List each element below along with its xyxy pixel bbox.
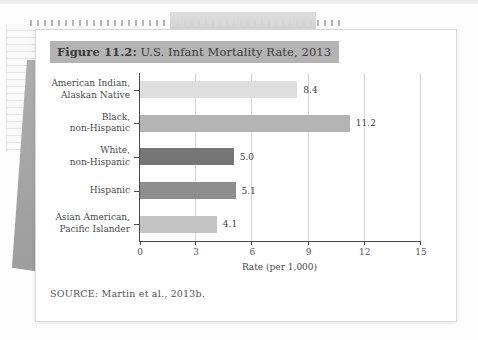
chart-bar-row: 8.4: [140, 73, 421, 107]
category-labels-column: American Indian, Alaskan NativeBlack, no…: [36, 73, 139, 241]
x-axis-tick: [251, 241, 252, 245]
chart-bar-row: 11.2: [140, 107, 421, 141]
chart-bar: [140, 81, 297, 98]
table-edge-strip: [0, 0, 478, 4]
bar-value-label: 5.1: [242, 186, 256, 196]
x-axis-tick: [420, 241, 421, 245]
category-label-row: Black, non-Hispanic: [36, 107, 139, 141]
category-label: Hispanic: [90, 185, 130, 197]
x-axis-title: Rate (per 1,000): [139, 262, 420, 272]
category-label: Asian American, Pacific Islander: [55, 212, 130, 235]
x-tick-label: 6: [250, 247, 256, 257]
category-label-row: Asian American, Pacific Islander: [36, 207, 139, 241]
figure-title: Figure 11.2: U.S. Infant Mortality Rate,…: [50, 41, 339, 63]
x-tick-label: 3: [193, 247, 199, 257]
category-label-row: Hispanic: [36, 174, 139, 208]
x-axis-tick: [308, 241, 309, 245]
chart-bar-row: 5.1: [140, 174, 421, 208]
source-note: SOURCE: Martin et al., 2013b.: [50, 288, 205, 299]
page: Figure 11.2: U.S. Infant Mortality Rate,…: [0, 0, 478, 340]
bar-value-label: 11.2: [356, 118, 376, 128]
bar-value-label: 5.0: [240, 152, 254, 162]
category-label: American Indian, Alaskan Native: [51, 78, 130, 101]
figure-card: Figure 11.2: U.S. Infant Mortality Rate,…: [35, 29, 457, 322]
x-axis-tick: [364, 241, 365, 245]
x-tick-label: 9: [306, 247, 312, 257]
chart-bar-row: 5.0: [140, 140, 421, 174]
figure-number: Figure 11.2:: [57, 45, 137, 59]
category-label: White, non-Hispanic: [70, 145, 130, 168]
chart-bar: [140, 148, 234, 165]
bar-chart-plot: 036912158.411.25.05.14.1: [139, 73, 421, 242]
x-tick-label: 12: [359, 247, 370, 257]
x-axis-tick: [140, 241, 141, 245]
category-label: Black, non-Hispanic: [70, 112, 130, 135]
chart-bar: [140, 182, 236, 199]
chart-bar: [140, 216, 217, 233]
category-label-row: White, non-Hispanic: [36, 140, 139, 174]
chart-bar-row: 4.1: [140, 207, 421, 241]
x-axis-tick: [195, 241, 196, 245]
x-tick-label: 15: [415, 247, 426, 257]
bar-value-label: 4.1: [223, 219, 237, 229]
figure-title-text: U.S. Infant Mortality Rate, 2013: [137, 45, 331, 59]
chart-bar: [140, 115, 350, 132]
x-tick-label: 0: [137, 247, 143, 257]
bar-value-label: 8.4: [303, 85, 317, 95]
category-label-row: American Indian, Alaskan Native: [36, 73, 139, 107]
